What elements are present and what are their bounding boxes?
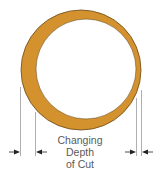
label-line-2: Depth <box>66 146 94 158</box>
inner-bore-circle <box>36 19 136 119</box>
changing-depth-of-cut-diagram: Changing Depth of Cut <box>0 0 163 180</box>
arrow-left-icon <box>142 150 148 155</box>
arrow-left-icon <box>36 150 42 155</box>
label-line-3: of Cut <box>66 158 94 170</box>
arrow-right-icon <box>14 150 20 155</box>
left-dimension-arrows <box>9 150 47 155</box>
label-line-1: Changing <box>58 134 103 146</box>
arrow-right-icon <box>130 150 136 155</box>
right-dimension-arrows <box>125 150 153 155</box>
